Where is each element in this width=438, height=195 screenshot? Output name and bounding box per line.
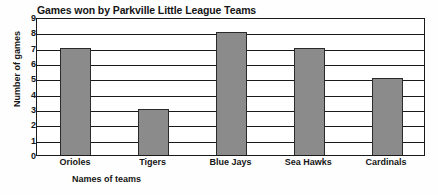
bar bbox=[372, 78, 403, 155]
x-axis-tick-label: Orioles bbox=[59, 157, 90, 167]
y-axis-tick-label: 6 bbox=[24, 60, 36, 69]
bar bbox=[138, 109, 169, 155]
x-axis-tick-labels: OriolesTigersBlue JaysSea HawksCardinals bbox=[36, 157, 425, 171]
y-axis-tick-label: 0 bbox=[24, 152, 36, 161]
bar-chart-figure: Games won by Parkville Little League Tea… bbox=[0, 0, 438, 195]
y-axis-tick-label: 8 bbox=[24, 29, 36, 38]
x-axis-tick-label: Tigers bbox=[139, 157, 166, 167]
x-axis-tick-label: Cardinals bbox=[366, 157, 407, 167]
y-axis-title: Number of games bbox=[12, 9, 22, 129]
bar bbox=[294, 48, 325, 155]
y-axis-tick-label: 5 bbox=[24, 75, 36, 84]
y-axis-tick-label: 4 bbox=[24, 90, 36, 99]
y-axis-tick-label: 1 bbox=[24, 136, 36, 145]
y-axis-tick-labels: 0123456789 bbox=[24, 18, 36, 156]
y-axis-tick-label: 2 bbox=[24, 121, 36, 130]
bar bbox=[60, 48, 91, 155]
plot-area bbox=[36, 18, 425, 156]
y-axis-tick-label: 3 bbox=[24, 106, 36, 115]
y-axis-tick-label: 9 bbox=[24, 14, 36, 23]
y-axis-tick-label: 7 bbox=[24, 44, 36, 53]
bar bbox=[216, 32, 247, 155]
x-axis-tick-label: Sea Hawks bbox=[285, 157, 332, 167]
chart-title: Games won by Parkville Little League Tea… bbox=[37, 4, 256, 16]
bars-layer bbox=[37, 19, 424, 155]
x-axis-tick-label: Blue Jays bbox=[209, 157, 251, 167]
x-axis-title: Names of teams bbox=[72, 174, 141, 184]
